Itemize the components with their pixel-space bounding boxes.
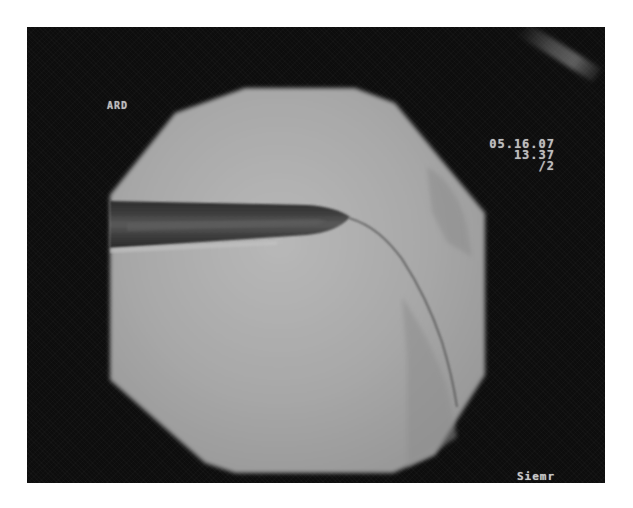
frame-label: /2 — [489, 161, 555, 172]
fluoroscopy-frame: ARD 05.16.0713.37/2 Siemr — [27, 27, 605, 483]
fluoroscopy-scene — [27, 27, 605, 483]
page: ARD 05.16.0713.37/2 Siemr — [0, 0, 633, 508]
label-top-left: ARD — [107, 100, 128, 112]
label-bottom-right: Siemr — [517, 471, 555, 483]
timestamp-block: 05.16.0713.37/2 — [489, 139, 555, 172]
